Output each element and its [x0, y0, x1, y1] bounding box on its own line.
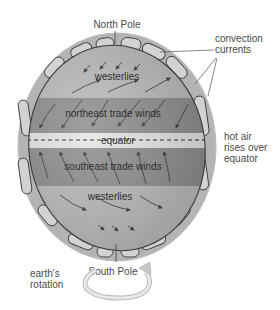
label-convection-line2: currents	[215, 44, 251, 55]
label-hot-air-line2: rises over	[224, 142, 268, 153]
wind-diagram: westerlies northeast trade winds equator…	[0, 0, 280, 310]
label-southeast-trade-winds: southeast trade winds	[64, 161, 161, 172]
label-north-pole: North Pole	[93, 19, 141, 30]
label-northeast-trade-winds: northeast trade winds	[65, 108, 161, 119]
label-equator: equator	[101, 135, 136, 146]
label-westerlies-south: westerlies	[87, 191, 132, 202]
label-hot-air-line1: hot air	[224, 131, 252, 142]
label-convection-line1: convection	[215, 33, 263, 44]
label-rotation-line1: earth's	[30, 268, 60, 279]
label-westerlies-north: westerlies	[94, 71, 139, 82]
label-hot-air-line3: equator	[224, 153, 259, 164]
label-rotation-line2: rotation	[30, 279, 63, 290]
